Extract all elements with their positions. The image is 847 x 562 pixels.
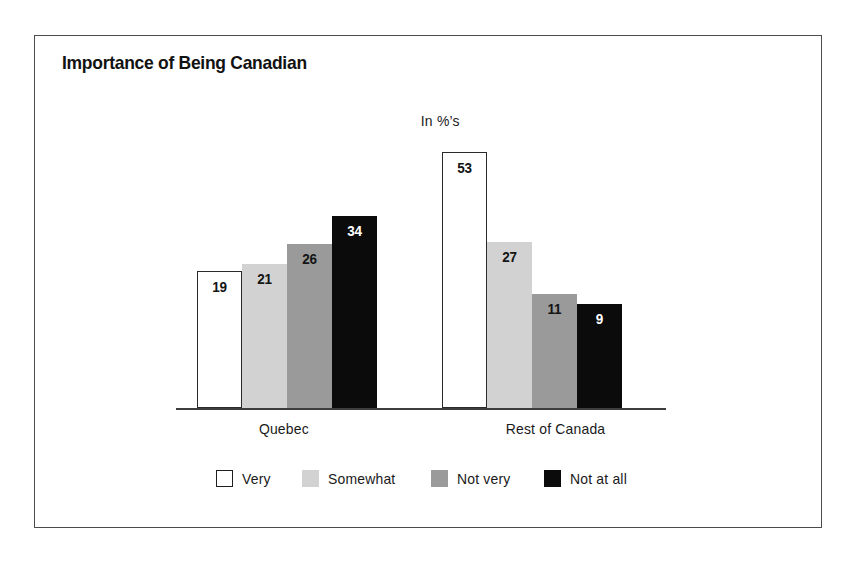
bars-rest-of-canada: 53 27 11 9	[442, 140, 622, 408]
legend-item-not-at-all[interactable]: Not at all	[544, 470, 631, 487]
bar-quebec-not-very[interactable]: 26	[287, 244, 332, 408]
bar-value-label: 19	[200, 279, 239, 294]
legend-item-very[interactable]: Very	[216, 470, 273, 487]
bar-group-rest-of-canada: 53 27 11 9	[442, 140, 622, 408]
chart-legend: Very Somewhat Not very Not at all	[0, 470, 847, 487]
legend-label-not-at-all: Not at all	[570, 470, 627, 487]
legend-swatch-very-icon	[216, 470, 233, 487]
bar-quebec-somewhat[interactable]: 21	[242, 264, 287, 408]
category-label-rest-of-canada: Rest of Canada	[506, 420, 606, 437]
bar-quebec-not-at-all[interactable]: 34	[332, 216, 377, 408]
legend-label-very: Very	[242, 470, 271, 487]
bar-group-quebec: 19 21 26 34	[197, 140, 377, 408]
x-axis-line	[176, 408, 666, 410]
legend-item-not-very[interactable]: Not very	[431, 470, 514, 487]
bar-value-label: 9	[579, 311, 620, 326]
legend-swatch-somewhat-icon	[302, 470, 319, 487]
bar-rest-of-canada-somewhat[interactable]: 27	[487, 242, 532, 408]
bar-value-label: 11	[534, 301, 575, 316]
bar-value-label: 53	[445, 160, 484, 175]
bar-rest-of-canada-not-very[interactable]: 11	[532, 294, 577, 408]
legend-label-somewhat: Somewhat	[328, 470, 395, 487]
chart-title: Importance of Being Canadian	[62, 52, 307, 74]
plot-area: 19 21 26 34 53 27	[176, 140, 666, 410]
bar-quebec-very[interactable]: 19	[197, 271, 242, 408]
bars-quebec: 19 21 26 34	[197, 140, 377, 408]
bar-value-label: 21	[244, 271, 285, 286]
legend-label-not-very: Not very	[457, 470, 510, 487]
chart-page: Importance of Being Canadian In %’s 19 2…	[0, 0, 847, 562]
category-axis-labels: Quebec Rest of Canada	[0, 420, 847, 442]
legend-item-somewhat[interactable]: Somewhat	[302, 470, 400, 487]
bar-value-label: 26	[289, 251, 330, 266]
legend-swatch-not-very-icon	[431, 470, 448, 487]
units-label-text: In %’s	[387, 112, 459, 129]
units-label: In %’s	[30, 112, 818, 129]
bar-value-label: 34	[334, 223, 375, 238]
bar-value-label: 27	[489, 249, 530, 264]
legend-swatch-not-at-all-icon	[544, 470, 561, 487]
bar-rest-of-canada-not-at-all[interactable]: 9	[577, 304, 622, 408]
bar-rest-of-canada-very[interactable]: 53	[442, 152, 487, 408]
category-label-quebec: Quebec	[259, 420, 309, 437]
